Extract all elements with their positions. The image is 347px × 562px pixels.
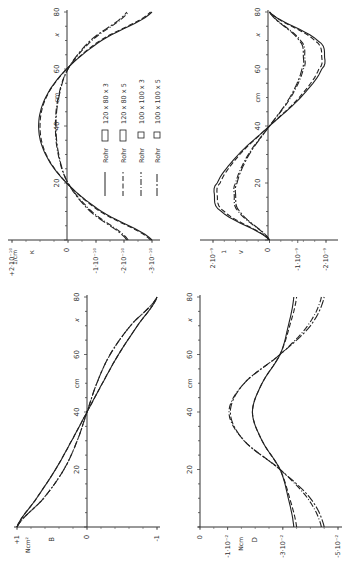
- legend-item: Rohr120 x 80 x 5: [120, 83, 128, 196]
- legend-section: 100 x 100 x 5: [154, 79, 162, 124]
- x-tick-label: 60: [73, 350, 81, 359]
- x-tick-label: 80: [254, 8, 262, 17]
- x-tick-label: 20: [73, 465, 81, 474]
- x-axis-label: x: [73, 318, 81, 323]
- origin-label: 0: [63, 248, 71, 252]
- value-tick-label: -1·10⁻²: [224, 535, 232, 558]
- panel-kappa: [8, 10, 160, 243]
- legend-label: Rohr: [154, 148, 162, 163]
- value-tick-label: -2·10⁻⁹: [322, 248, 330, 271]
- quantity-unit: Ncm²: [24, 536, 31, 553]
- x-tick-label: 80: [73, 293, 81, 302]
- x-tick-label: 40: [53, 122, 61, 131]
- quantity-unit: 1: [220, 250, 227, 254]
- origin-label: 0: [83, 535, 91, 539]
- x-tick-label: 20: [53, 179, 61, 188]
- x-unit-label: cm: [186, 378, 194, 388]
- value-tick-label: -2·10⁻¹⁰: [120, 248, 128, 274]
- figure-four-panels: Rohr120 x 80 x 3Rohr120 x 80 x 5Rohr100 …: [0, 0, 347, 562]
- curve-N-3: [230, 297, 324, 527]
- panel-v: [200, 10, 338, 243]
- quantity-symbol: B: [48, 537, 56, 542]
- legend-section: 120 x 80 x 3: [102, 83, 110, 124]
- legend-section: 100 x 100 x 3: [138, 79, 146, 124]
- x-tick-label: 40: [186, 408, 194, 417]
- value-tick-label: -3·10⁻¹⁰: [148, 248, 156, 274]
- value-tick-label: -1·10⁻¹⁰: [92, 248, 100, 274]
- curve-N-1: [252, 297, 296, 527]
- x-tick-label: 80: [53, 8, 61, 17]
- value-tick-label: -3·10⁻²: [279, 535, 287, 558]
- x-tick-label: 60: [186, 350, 194, 359]
- legend-section: 120 x 80 x 5: [120, 83, 128, 124]
- legend-item: Rohr100 x 100 x 3: [138, 79, 146, 196]
- panel-N: [197, 295, 342, 530]
- plot-area: Rohr120 x 80 x 3Rohr120 x 80 x 5Rohr100 …: [8, 10, 342, 530]
- value-tick-label: 0: [196, 535, 204, 539]
- section-square-icon: [138, 132, 144, 138]
- x-unit-label: cm: [53, 93, 61, 103]
- section-square-icon: [154, 132, 160, 138]
- x-tick-label: 20: [186, 465, 194, 474]
- x-unit-label: cm: [73, 378, 81, 388]
- legend-label: Rohr: [102, 148, 110, 163]
- quantity-symbol: v: [237, 250, 245, 254]
- section-rect-icon: [120, 130, 126, 141]
- quantity-symbol: D: [251, 537, 259, 542]
- value-tick-label: -5·10⁻²: [334, 535, 342, 558]
- legend-label: Rohr: [120, 148, 128, 163]
- quantity-unit: Ncm: [237, 537, 244, 551]
- value-tick-label: -1: [153, 535, 161, 541]
- x-unit-label: cm: [254, 93, 262, 103]
- x-tick-label: 40: [73, 408, 81, 417]
- legend-item: Rohr100 x 100 x 5: [154, 79, 162, 196]
- value-tick-label: 2·10⁻⁹: [209, 248, 217, 269]
- axis-labels: 20406080cmx0+2·10⁻¹⁰-1·10⁻¹⁰-2·10⁻¹⁰-3·1…: [8, 8, 342, 558]
- value-tick-label: +1: [13, 535, 21, 545]
- value-tick-label: -1·10⁻⁹: [294, 248, 302, 271]
- curve-v-3: [235, 12, 303, 240]
- quantity-symbol: κ: [28, 250, 36, 254]
- x-tick-label: 60: [53, 65, 61, 74]
- legend-item: Rohr120 x 80 x 3: [102, 83, 110, 196]
- legend-label: Rohr: [138, 148, 146, 163]
- panel-M: [14, 295, 160, 530]
- origin-label: 0: [264, 248, 272, 252]
- x-axis-label: x: [53, 33, 61, 38]
- curve-N-2: [229, 297, 321, 527]
- x-tick-label: 40: [254, 122, 262, 131]
- legend: Rohr120 x 80 x 3Rohr120 x 80 x 5Rohr100 …: [102, 79, 162, 196]
- x-tick-label: 60: [254, 65, 262, 74]
- x-axis-label: x: [254, 33, 262, 38]
- quantity-unit: 1/cm: [11, 250, 18, 265]
- x-tick-label: 80: [186, 293, 194, 302]
- section-rect-icon: [102, 130, 108, 141]
- x-axis-label: x: [186, 318, 194, 323]
- x-tick-label: 20: [254, 179, 262, 188]
